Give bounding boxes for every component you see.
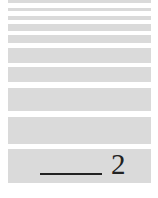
page-number: 2 <box>111 150 126 179</box>
gray-band <box>8 8 151 11</box>
gray-band <box>8 16 151 20</box>
gray-band <box>8 117 151 144</box>
gray-band <box>8 35 151 43</box>
gray-band <box>8 88 151 111</box>
gray-band <box>8 0 151 3</box>
blank-line <box>40 173 102 175</box>
gray-band <box>8 67 151 82</box>
gray-band <box>8 149 151 183</box>
gray-band <box>8 48 151 63</box>
gray-band <box>8 24 151 31</box>
